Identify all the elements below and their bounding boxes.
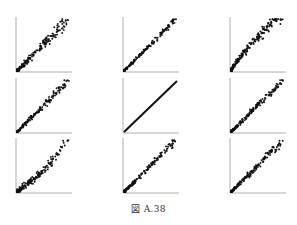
scatter-panel-r3c3 xyxy=(230,138,286,193)
identity-line xyxy=(124,81,177,132)
scatter-panel-r3c2 xyxy=(123,138,179,193)
scatter-panel-r1c3 xyxy=(230,17,286,72)
scatter-panel-r2c1 xyxy=(16,78,72,133)
scatter-panel-r2c2 xyxy=(123,78,179,133)
scatter-matrix xyxy=(0,0,297,200)
figure-caption: 図 A.38 xyxy=(0,202,297,215)
scatter-panel-r3c1 xyxy=(16,138,72,193)
scatter-panel-r1c1 xyxy=(16,17,72,72)
axes xyxy=(230,17,286,72)
scatter-panel-r2c3 xyxy=(230,78,286,133)
scatter-panel-r1c2 xyxy=(123,17,179,72)
